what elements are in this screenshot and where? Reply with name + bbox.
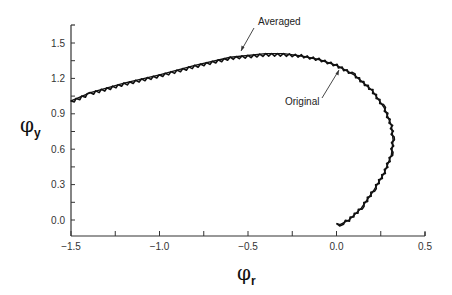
y-tick-label: 0.3 bbox=[51, 179, 65, 190]
y-tick-label: 1.2 bbox=[51, 73, 65, 84]
y-tick-label: 1.5 bbox=[51, 38, 65, 49]
x-axis-title: φ bbox=[237, 261, 251, 285]
y-axis-title: φ bbox=[20, 113, 34, 137]
annotation-averaged: Averaged bbox=[258, 16, 301, 27]
series-averaged bbox=[71, 54, 393, 225]
x-axis-subscript: r bbox=[251, 274, 256, 288]
y-tick-label: 0.6 bbox=[51, 144, 65, 155]
y-tick-label: 0.9 bbox=[51, 108, 65, 119]
y-tick-label: 0.0 bbox=[51, 215, 65, 226]
x-tick-label: 0.5 bbox=[418, 241, 432, 252]
y-axis-subscript: y bbox=[34, 126, 41, 140]
x-tick-label: −1.0 bbox=[150, 241, 170, 252]
x-tick-label: −0.5 bbox=[238, 241, 258, 252]
annotation-original: Original bbox=[285, 96, 319, 107]
x-tick-label: −1.5 bbox=[61, 241, 81, 252]
phase-plot: 0.00.30.60.91.21.5−1.5−1.0−0.50.00.5 Ave… bbox=[0, 0, 452, 295]
axes: 0.00.30.60.91.21.5−1.5−1.0−0.50.00.5 bbox=[51, 25, 432, 252]
series-original bbox=[71, 54, 395, 227]
series-lines bbox=[71, 54, 395, 227]
x-tick-label: 0.0 bbox=[330, 241, 344, 252]
